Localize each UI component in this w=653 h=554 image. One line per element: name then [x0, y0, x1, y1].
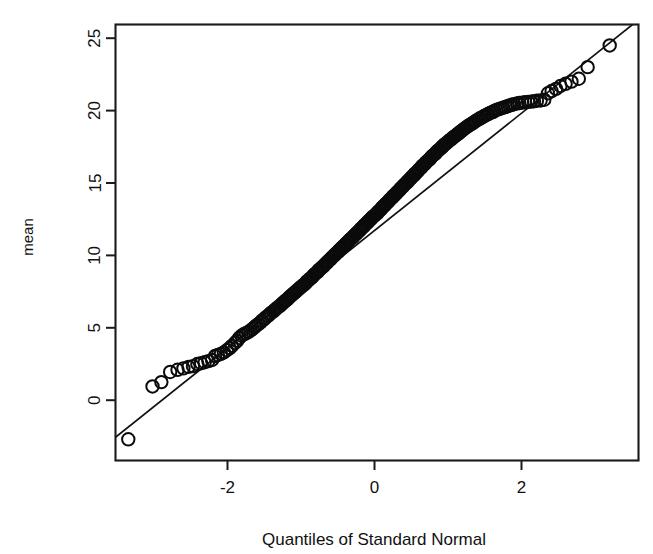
y-tick-label-5: 5 — [86, 323, 105, 332]
qq-plot-canvas: 25 20 15 10 5 0 -2 0 2 Quantiles of Stan… — [0, 0, 653, 554]
y-tick-label-25: 25 — [86, 29, 105, 48]
y-axis-title: mean — [19, 218, 36, 256]
y-tick-label-15: 15 — [86, 174, 105, 193]
x-tick-label-0: 0 — [370, 478, 379, 497]
x-tick-label-2: 2 — [517, 478, 526, 497]
x-axis-title: Quantiles of Standard Normal — [262, 530, 486, 549]
x-tick-label-minus2: -2 — [220, 478, 235, 497]
y-tick-label-20: 20 — [86, 101, 105, 120]
y-tick-label-0: 0 — [86, 395, 105, 404]
y-tick-label-10: 10 — [86, 246, 105, 265]
qq-plot-figure: 25 20 15 10 5 0 -2 0 2 Quantiles of Stan… — [0, 0, 653, 554]
